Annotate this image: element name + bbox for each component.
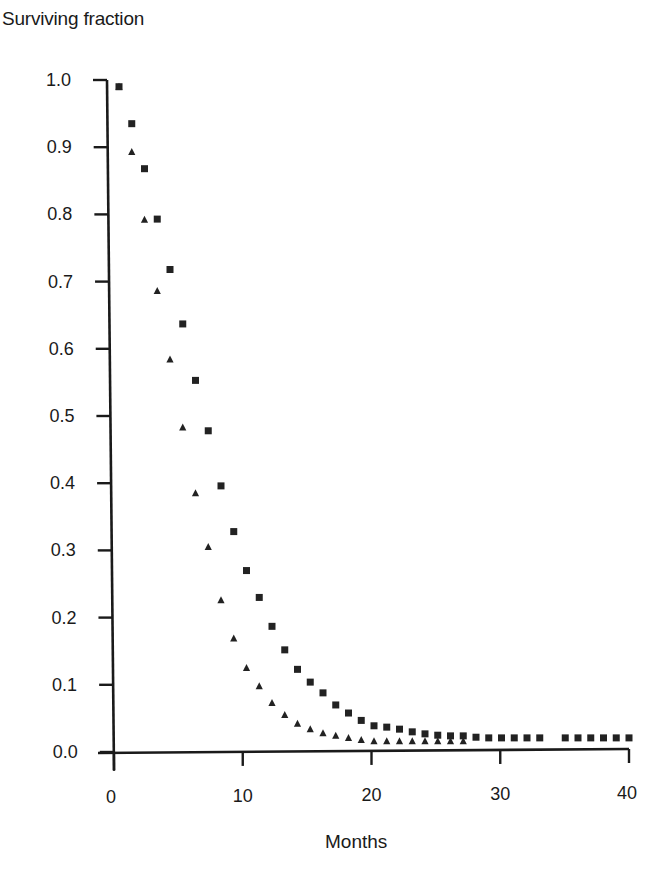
square-marker xyxy=(409,728,416,735)
square-marker xyxy=(498,734,505,741)
square-marker xyxy=(294,666,301,673)
square-marker xyxy=(230,528,237,535)
triangle-marker xyxy=(294,720,301,727)
triangle-marker xyxy=(421,737,428,744)
axes: 0.00.10.20.30.40.50.60.70.80.91.00102030… xyxy=(46,70,637,807)
y-tick-label: 0.2 xyxy=(51,608,76,628)
y-tick-label: 0.9 xyxy=(47,137,72,157)
square-marker xyxy=(383,724,390,731)
scatter-plot: 0.00.10.20.30.40.50.60.70.80.91.00102030… xyxy=(0,0,653,870)
square-marker xyxy=(320,689,327,696)
square-marker xyxy=(307,679,314,686)
square-marker xyxy=(536,734,543,741)
square-marker xyxy=(626,734,633,741)
x-tick-label: 0 xyxy=(106,787,116,807)
square-marker xyxy=(613,734,620,741)
triangle-marker xyxy=(256,682,263,689)
triangle-marker xyxy=(383,737,390,744)
y-tick-label: 0.8 xyxy=(47,204,72,224)
square-marker xyxy=(600,734,607,741)
triangle-marker xyxy=(243,664,250,671)
triangle-marker xyxy=(319,729,326,736)
square-marker xyxy=(141,165,148,172)
y-tick-label: 0.7 xyxy=(48,272,73,292)
x-tick-label: 20 xyxy=(361,785,381,805)
square-marker xyxy=(371,722,378,729)
x-tick-label: 10 xyxy=(233,786,253,806)
y-axis-line xyxy=(107,80,114,770)
square-marker xyxy=(281,646,288,653)
y-tick-label: 0.6 xyxy=(49,339,74,359)
triangle-marker xyxy=(268,699,275,706)
triangle-marker xyxy=(281,711,288,718)
y-tick-label: 1.0 xyxy=(46,70,71,90)
y-tick-label: 0.5 xyxy=(49,406,74,426)
y-tick-label: 0.4 xyxy=(50,473,75,493)
triangle-marker xyxy=(128,148,135,155)
triangle-marker xyxy=(396,737,403,744)
y-tick-label: 0.3 xyxy=(51,540,76,560)
square-marker xyxy=(205,427,212,434)
square-marker xyxy=(422,730,429,737)
triangle-marker xyxy=(409,737,416,744)
square-marker xyxy=(256,594,263,601)
square-marker xyxy=(192,377,199,384)
x-axis-line xyxy=(98,749,629,753)
triangle-marker xyxy=(192,489,199,496)
square-marker xyxy=(154,216,161,223)
square-marker xyxy=(485,734,492,741)
triangle-marker xyxy=(141,216,148,223)
data-points xyxy=(115,83,632,745)
x-tick-label: 40 xyxy=(617,783,637,803)
triangle-marker xyxy=(307,725,314,732)
square-marker xyxy=(473,734,480,741)
square-marker xyxy=(358,717,365,724)
square-marker xyxy=(524,734,531,741)
y-tick-label: 0.1 xyxy=(52,675,77,695)
triangle-marker xyxy=(217,596,224,603)
square-marker xyxy=(511,734,518,741)
square-marker xyxy=(179,320,186,327)
square-marker xyxy=(167,266,174,273)
square-marker xyxy=(243,567,250,574)
x-tick-label: 30 xyxy=(490,784,510,804)
square-marker xyxy=(562,734,569,741)
triangle-marker xyxy=(370,737,377,744)
square-marker xyxy=(128,120,135,127)
square-marker xyxy=(218,482,225,489)
square-marker xyxy=(332,701,339,708)
y-tick-label: 0.0 xyxy=(53,742,78,762)
square-marker xyxy=(345,710,352,717)
triangle-marker xyxy=(358,736,365,743)
triangle-marker xyxy=(179,423,186,430)
square-marker xyxy=(396,726,403,733)
triangle-marker xyxy=(332,732,339,739)
triangle-marker xyxy=(205,543,212,550)
square-marker xyxy=(575,734,582,741)
square-marker xyxy=(587,734,594,741)
triangle-marker xyxy=(166,356,173,363)
triangle-marker xyxy=(154,287,161,294)
triangle-marker xyxy=(345,734,352,741)
square-marker xyxy=(269,623,276,630)
triangle-marker xyxy=(230,634,237,641)
